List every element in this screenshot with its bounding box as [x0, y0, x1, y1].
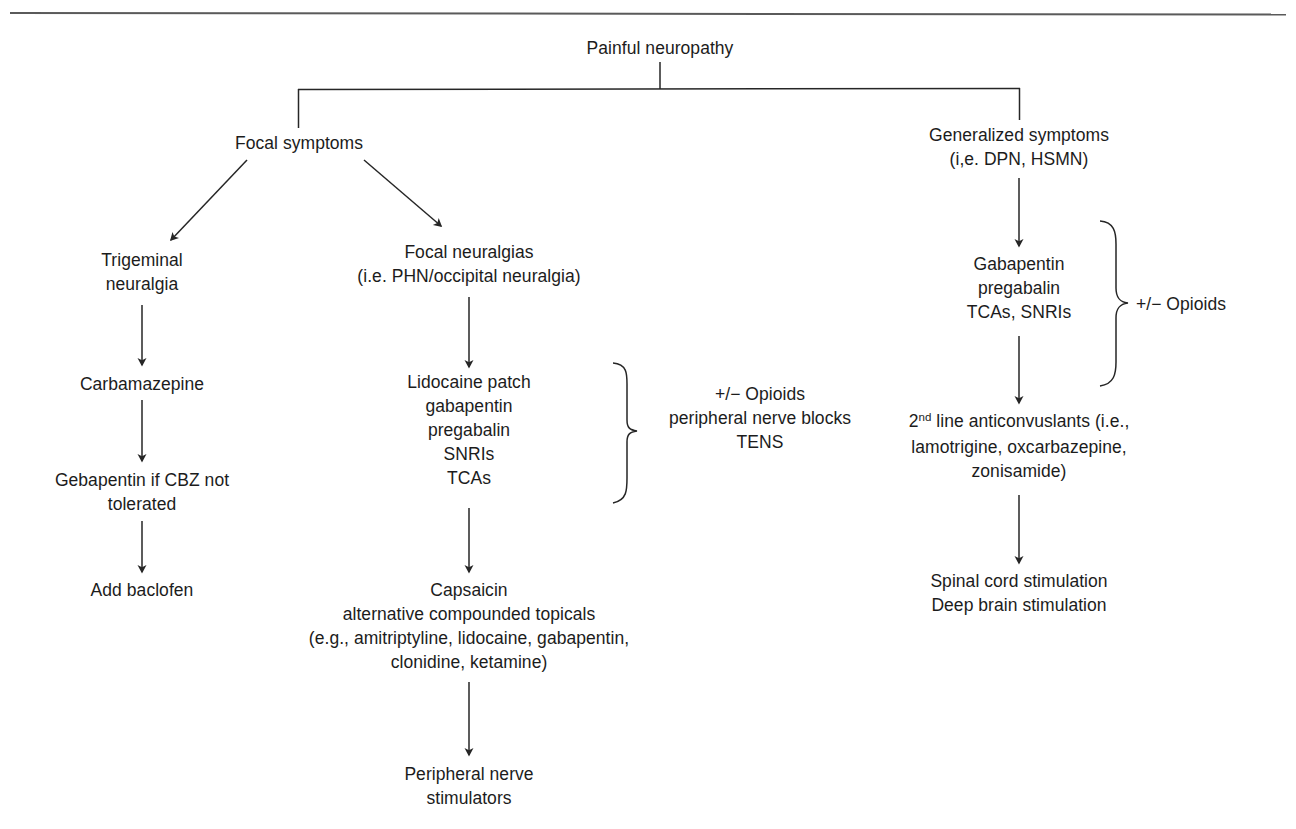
node-capsaicin-topicals: Capsaicin alternative compounded topical…: [309, 578, 629, 674]
node-stimulation-options: Spinal cord stimulation Deep brain stimu…: [930, 569, 1107, 617]
node-focal-symptoms: Focal symptoms: [235, 131, 363, 155]
flowchart-figure: Painful neuropathy Focal symptoms Genera…: [0, 0, 1296, 829]
node-trigeminal-neuralgia: Trigeminal neuralgia: [101, 248, 183, 296]
second-line-ordinal-line: 2nd line anticonvuslants (i.e.,: [909, 409, 1130, 435]
arrow-focal-to-trigeminal: [171, 160, 247, 240]
node-painful-neuropathy: Painful neuropathy: [587, 36, 734, 60]
split-bar: [298, 89, 1020, 90]
node-generalized-first-line-drugs: Gabapentin pregabalin TCAs, SNRIs: [967, 252, 1072, 324]
node-generalized-symptoms: Generalized symptoms (i,e. DPN, HSMN): [929, 123, 1109, 171]
ordinal-superscript: nd: [918, 411, 931, 423]
node-second-line-anticonvulsants: 2nd line anticonvuslants (i.e., lamotrig…: [909, 409, 1130, 483]
node-gebapentin-if-cbz-not-tolerated: Gebapentin if CBZ not tolerated: [55, 468, 229, 516]
node-focal-neuralgias-first-line-drugs: Lidocaine patch gabapentin pregabalin SN…: [407, 370, 530, 490]
brace-middle-adjuncts: [613, 363, 637, 503]
node-focal-neuralgias: Focal neuralgias (i.e. PHN/occipital neu…: [357, 240, 580, 288]
node-middle-adjuncts: +/− Opioids peripheral nerve blocks TENS: [669, 382, 851, 454]
node-right-adjunct-opioids: +/− Opioids: [1136, 292, 1226, 316]
arrow-focal-to-neuralgias: [364, 160, 441, 226]
node-peripheral-nerve-stimulators: Peripheral nerve stimulators: [404, 762, 533, 810]
brace-right-opioids: [1100, 221, 1128, 386]
node-carbamazepine: Carbamazepine: [80, 372, 204, 396]
node-add-baclofen: Add baclofen: [91, 578, 194, 602]
